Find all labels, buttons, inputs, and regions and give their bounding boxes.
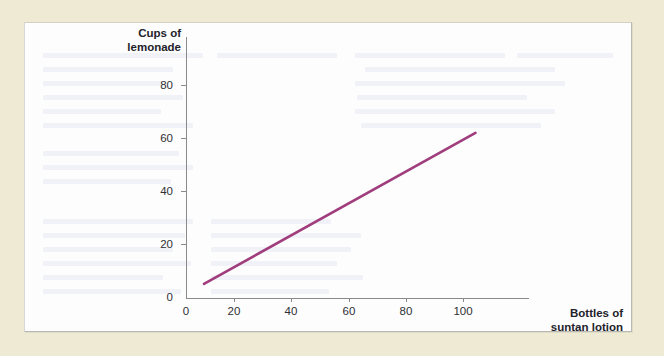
data-series-layer xyxy=(25,23,632,332)
figure-panel: Cups of lemonade Bottles of suntan lotio… xyxy=(24,22,632,332)
series-line-lemonade xyxy=(204,133,475,284)
plot-area: Cups of lemonade Bottles of suntan lotio… xyxy=(25,23,631,331)
